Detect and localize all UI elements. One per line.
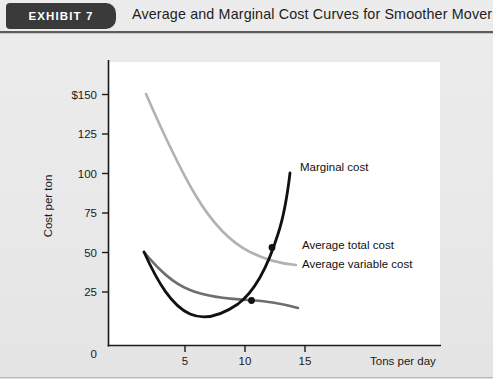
chart-container: $150 125 100 75 50 25 0 Cost per ton 5 1… — [0, 38, 493, 379]
y-tick-label-150: $150 — [71, 89, 97, 101]
y-tick-label-75: 75 — [84, 207, 97, 219]
x-axis-ticks — [185, 346, 305, 352]
x-tick-label-10: 10 — [239, 355, 252, 367]
exhibit-title: Average and Marginal Cost Curves for Smo… — [132, 6, 492, 22]
intersection-point-mc-atc — [269, 244, 276, 251]
header-divider-highlight — [0, 33, 493, 34]
average-variable-cost-label: Average variable cost — [302, 258, 413, 270]
figure-bottom-divider — [0, 377, 493, 378]
y-tick-label-25: 25 — [84, 286, 97, 298]
exhibit-badge: EXHIBIT 7 — [6, 3, 116, 29]
x-tick-label-5: 5 — [182, 355, 188, 367]
y-tick-label-50: 50 — [84, 247, 97, 259]
average-total-cost-label: Average total cost — [302, 239, 395, 251]
y-tick-label-125: 125 — [78, 128, 97, 140]
exhibit-badge-label: EXHIBIT 7 — [29, 10, 94, 22]
x-axis-title: Tons per day — [370, 355, 436, 367]
y-tick-label-0: 0 — [91, 348, 97, 360]
exhibit-header: EXHIBIT 7 Average and Marginal Cost Curv… — [0, 0, 493, 38]
cost-curves-chart: $150 125 100 75 50 25 0 Cost per ton 5 1… — [0, 38, 493, 379]
exhibit-figure: EXHIBIT 7 Average and Marginal Cost Curv… — [0, 0, 493, 379]
y-axis-title: Cost per ton — [42, 175, 54, 238]
y-tick-label-100: 100 — [78, 168, 97, 180]
intersection-point-mc-avc — [248, 297, 255, 304]
x-tick-label-15: 15 — [299, 355, 312, 367]
marginal-cost-label: Marginal cost — [300, 161, 369, 173]
y-axis-ticks — [102, 95, 108, 293]
